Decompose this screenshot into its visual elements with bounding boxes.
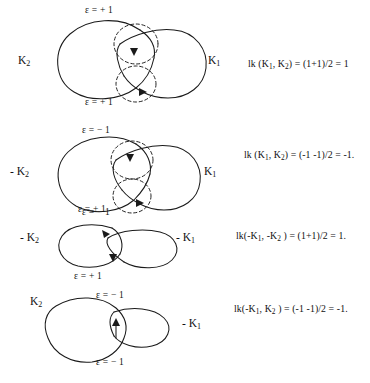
- knot-label-row-4-right: - K1: [182, 318, 201, 331]
- formula-row-3-head: lk(-K: [236, 230, 258, 241]
- formula-row-4: lk(-K1, K2 ) = (-1 -1)/2 = -1.: [234, 304, 348, 315]
- formula-row-4-tail: ) = (-1 -1)/2 = -1.: [276, 303, 348, 314]
- knot-diagram-row-1: [48, 8, 223, 108]
- formula-row-1: lk (K1, K2) = (1+1)/2 = 1: [248, 59, 349, 70]
- epsilon-label-row-4-bottom: ε = − 1: [96, 358, 124, 368]
- epsilon-label-row-1-top: ε = + 1: [85, 6, 113, 16]
- left-loop-close: [140, 30, 154, 58]
- epsilon-label-row-3-bottom: ε = + 1: [74, 272, 102, 282]
- knot-label-row-3-left-sub: 2: [35, 236, 39, 245]
- crossing-circle-top: [111, 141, 153, 179]
- knot-label-row-1-right: K1: [208, 55, 220, 68]
- knot-label-row-4-left-sub: 2: [38, 300, 42, 309]
- knot-label-row-3-right: - K1: [176, 232, 195, 245]
- knot-label-row-3-left-text: - K: [20, 231, 35, 243]
- knot-diagram-row-3: [52, 218, 197, 276]
- knot-svg-row-3: [52, 218, 197, 276]
- formula-row-3-tail: ) = (1+1)/2 = 1.: [281, 230, 346, 241]
- knot-label-row-4-right-sub: 1: [197, 322, 201, 331]
- knot-label-row-4-left: K2: [30, 296, 42, 309]
- formula-row-3-mid: , -K: [262, 230, 278, 241]
- formula-row-2-tail: ) = (-1 -1)/2 = -1.: [285, 149, 355, 160]
- orientation-arrow-bottom: [139, 88, 147, 96]
- knot-label-row-2-left-sub: 2: [25, 170, 29, 179]
- formula-row-1-tail: ) = (1+1)/2 = 1: [289, 58, 349, 69]
- right-loop-close: [113, 160, 122, 190]
- crossing-circle-bottom: [113, 179, 151, 213]
- formula-row-3: lk(-K1, -K2 ) = (1+1)/2 = 1.: [236, 231, 346, 242]
- epsilon-label-row-3-upper: ε = + 1: [78, 205, 106, 215]
- knot-svg-row-1: [48, 8, 223, 108]
- formula-row-2-head: lk (K: [244, 149, 265, 160]
- formula-row-1-mid: , K: [273, 58, 285, 69]
- formula-row-1-head: lk (K: [248, 58, 269, 69]
- knot-label-row-3-right-sub: 1: [191, 236, 195, 245]
- knot-label-row-2-right-sub: 1: [212, 170, 216, 179]
- knot-label-row-1-left: K2: [18, 55, 30, 68]
- knot-label-row-3-left: - K2: [20, 232, 39, 245]
- formula-row-4-head: lk(-K: [234, 303, 256, 314]
- orientation-arrow-top: [102, 230, 110, 238]
- knot-svg-row-2: [48, 128, 223, 218]
- epsilon-label-row-1-bottom: ε = + 1: [85, 98, 113, 108]
- knot-diagram-row-2: [48, 128, 223, 218]
- epsilon-label-row-2-top: ε = − 1: [82, 126, 110, 136]
- epsilon-label-row-4-top: ε = − 1: [96, 291, 124, 301]
- knot-label-row-2-right: K1: [204, 166, 216, 179]
- formula-row-2: lk (K1, K2) = (-1 -1)/2 = -1.: [244, 150, 354, 161]
- knot-label-row-2-left-text: - K: [10, 165, 25, 177]
- left-loop-path: [45, 298, 126, 362]
- knot-label-row-2-left: - K2: [10, 166, 29, 179]
- orientation-arrow-top: [112, 318, 120, 326]
- left-loop-path: [58, 21, 154, 99]
- left-loop-path: [59, 225, 120, 268]
- knot-label-row-3-right-text: - K: [176, 231, 191, 243]
- orientation-arrow-top: [126, 154, 134, 162]
- left-loop-close: [112, 228, 122, 254]
- figure-page: ε = + 1 ε = + 1 K2 K1 lk (K1, K2) = (1+1…: [0, 0, 370, 383]
- knot-label-row-1-left-sub: 2: [26, 59, 30, 68]
- orientation-arrow-top: [130, 48, 138, 56]
- right-loop-path: [108, 230, 177, 268]
- formula-row-2-mid: , K: [269, 149, 281, 160]
- knot-label-row-4-right-text: - K: [182, 317, 197, 329]
- formula-row-4-mid: , K: [260, 303, 272, 314]
- knot-label-row-1-right-sub: 1: [216, 59, 220, 68]
- orientation-arrow-bottom: [109, 254, 117, 262]
